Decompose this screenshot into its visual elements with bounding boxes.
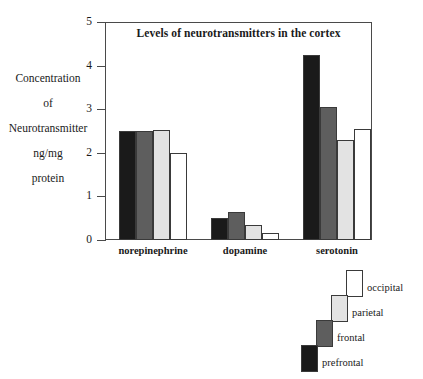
bar-dopamine-occipital xyxy=(262,233,279,240)
legend-swatch-occipital xyxy=(346,270,363,297)
bars-layer xyxy=(105,22,372,240)
y-axis-tick-label: 0 xyxy=(70,234,92,246)
y-axis-tick-label: 5 xyxy=(70,16,92,28)
bar-dopamine-parietal xyxy=(245,225,262,240)
y-axis-tick-label: 1 xyxy=(70,190,92,202)
bar-serotonin-occipital xyxy=(354,129,371,240)
y-axis-label: Concentration of Neurotransmitter ng/mg … xyxy=(0,66,96,191)
y-axis-label-line-5: protein xyxy=(0,166,96,191)
y-axis-tick-label: 2 xyxy=(70,147,92,159)
legend-swatch-parietal xyxy=(331,295,348,322)
legend-swatch-frontal xyxy=(316,320,333,347)
y-axis-label-line-3: Neurotransmitter xyxy=(0,116,96,141)
y-axis-tick-label: 4 xyxy=(70,60,92,72)
bar-dopamine-prefrontal xyxy=(211,218,228,240)
legend: occipitalparietalfrontalprefrontal xyxy=(300,268,423,379)
legend-label-occipital: occipital xyxy=(367,282,403,293)
y-axis-tick xyxy=(97,240,106,241)
bar-chart: Concentration of Neurotransmitter ng/mg … xyxy=(0,0,423,379)
bar-serotonin-parietal xyxy=(337,140,354,240)
legend-swatch-prefrontal xyxy=(301,345,318,372)
y-axis-tick-label: 3 xyxy=(70,103,92,115)
legend-label-parietal: parietal xyxy=(352,307,383,318)
bar-norepinephrine-prefrontal xyxy=(119,131,136,240)
bar-norepinephrine-frontal xyxy=(136,131,153,240)
bar-serotonin-prefrontal xyxy=(303,55,320,240)
legend-label-frontal: frontal xyxy=(337,332,365,343)
bar-serotonin-frontal xyxy=(320,107,337,240)
bar-norepinephrine-occipital xyxy=(170,153,187,240)
x-axis-label-serotonin: serotonin xyxy=(277,245,397,256)
bar-norepinephrine-parietal xyxy=(153,130,170,240)
legend-label-prefrontal: prefrontal xyxy=(322,357,363,368)
bar-dopamine-frontal xyxy=(228,212,245,240)
